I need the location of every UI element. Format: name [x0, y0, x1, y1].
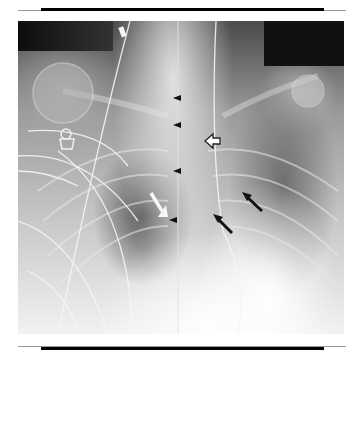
chest-radiograph: [18, 21, 344, 334]
radiograph-overlay: [18, 21, 344, 334]
top-thick-rule: [41, 8, 324, 11]
bottom-thick-rule: [41, 347, 324, 350]
